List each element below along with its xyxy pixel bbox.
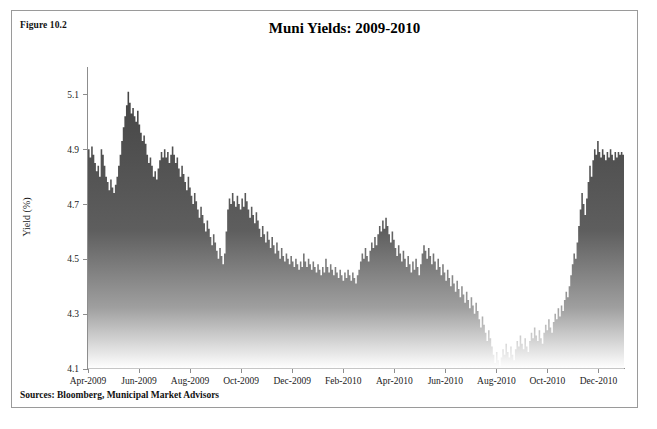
x-tick-label: Aug-2009	[171, 376, 210, 386]
y-tick-label: 5.1	[67, 90, 79, 100]
x-tick-label: Apr-2010	[376, 376, 413, 386]
y-tick-label: 4.7	[67, 200, 79, 210]
x-tick-label: Dec-2010	[580, 376, 618, 386]
muni-yields-area-chart: 4.14.34.54.74.95.1 Yield (%) Apr-2009Jun…	[12, 41, 637, 386]
x-tick-label: Jun-2009	[121, 376, 157, 386]
figure-frame: Figure 10.2 Muni Yields: 2009-2010 4.14.…	[11, 10, 638, 408]
x-tick-label: Aug-2010	[477, 376, 516, 386]
y-tick-label: 4.1	[67, 364, 79, 374]
x-tick-group: Apr-2009Jun-2009Aug-2009Oct-2009Dec-2009…	[70, 369, 618, 386]
page-title: Muni Yields: 2009-2010	[12, 20, 637, 37]
y-axis: 4.14.34.54.74.95.1 Yield (%)	[21, 67, 88, 374]
x-tick-label: Feb-2010	[325, 376, 362, 386]
yield-area-series	[88, 92, 624, 369]
y-tick-label: 4.3	[67, 309, 79, 319]
chart-plot-area: 4.14.34.54.74.95.1 Yield (%) Apr-2009Jun…	[12, 41, 637, 386]
x-tick-label: Apr-2009	[70, 376, 107, 386]
y-tick-group: 4.14.34.54.74.95.1	[67, 90, 88, 374]
y-tick-label: 4.5	[67, 254, 79, 264]
x-axis: Apr-2009Jun-2009Aug-2009Oct-2009Dec-2009…	[70, 369, 625, 386]
y-axis-title: Yield (%)	[21, 197, 33, 236]
x-tick-label: Oct-2009	[223, 376, 259, 386]
x-tick-label: Oct-2010	[529, 376, 565, 386]
y-tick-label: 4.9	[67, 145, 79, 155]
sources-note: Sources: Bloomberg, Municipal Market Adv…	[20, 390, 219, 400]
x-tick-label: Jun-2010	[428, 376, 464, 386]
x-tick-label: Dec-2009	[273, 376, 311, 386]
